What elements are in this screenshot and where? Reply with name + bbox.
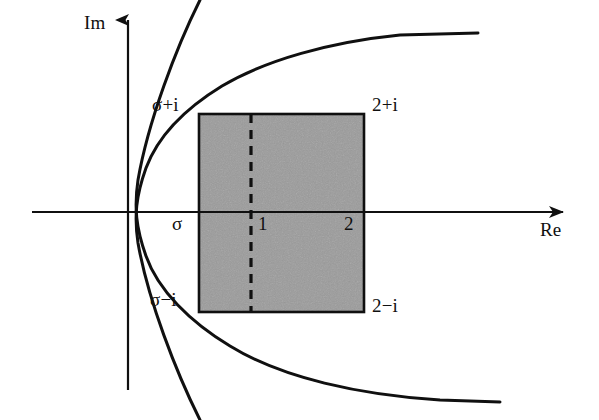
tick-label-two: 2 bbox=[344, 214, 354, 233]
label-two-minus-i: 2−i bbox=[372, 296, 398, 315]
imaginary-axis-label: Im bbox=[84, 13, 106, 32]
complex-plane-diagram bbox=[0, 0, 599, 420]
real-axis-label: Re bbox=[540, 220, 562, 239]
label-sigma-plus-i: σ+i bbox=[152, 95, 179, 114]
tick-label-sigma: σ bbox=[172, 214, 182, 233]
label-two-plus-i: 2+i bbox=[372, 95, 398, 114]
label-sigma-minus-i: σ−i bbox=[150, 290, 177, 309]
figure-canvas: Im Re σ+i 2+i σ−i 2−i σ 1 2 bbox=[0, 0, 599, 420]
tick-label-one: 1 bbox=[258, 214, 268, 233]
